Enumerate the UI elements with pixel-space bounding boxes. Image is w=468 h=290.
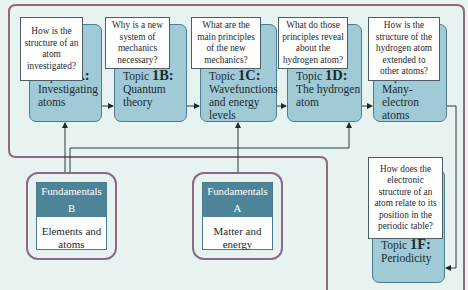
connector-arrows: [0, 0, 468, 290]
arrow-1e-1f: [446, 106, 456, 268]
arrow-fundb-1d: [70, 123, 349, 172]
